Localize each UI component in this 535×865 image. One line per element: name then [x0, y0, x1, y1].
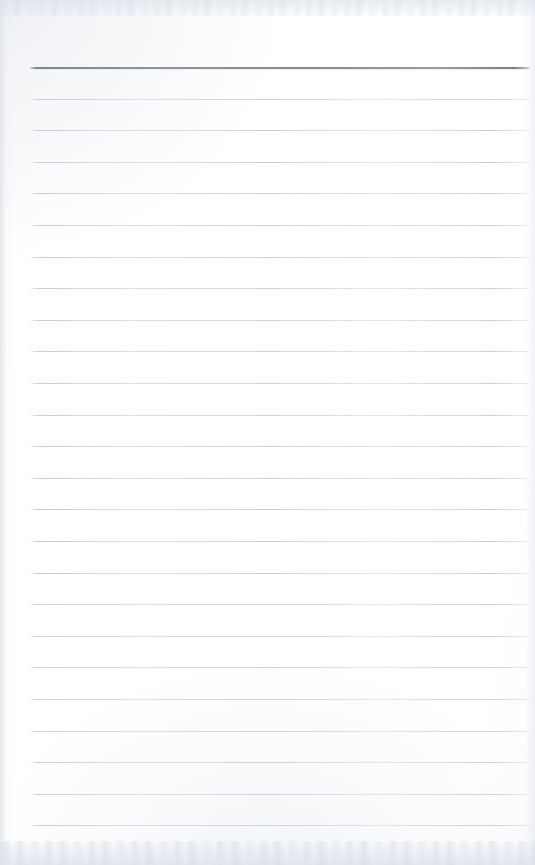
rule-line	[30, 99, 529, 100]
rule-line	[30, 225, 529, 226]
rule-line	[30, 162, 529, 163]
rule-line	[30, 478, 529, 479]
rule-line	[30, 446, 529, 447]
rule-line	[30, 383, 529, 384]
rule-line	[30, 288, 529, 289]
rule-line	[30, 509, 529, 510]
scanned-page	[0, 0, 535, 865]
rule-line	[30, 604, 529, 605]
rule-line	[30, 825, 529, 826]
ruled-lines-layer	[0, 0, 535, 865]
rule-line	[30, 699, 529, 700]
rule-line	[30, 257, 529, 258]
rule-line	[30, 351, 529, 352]
rule-line	[30, 320, 529, 321]
rule-line	[30, 667, 529, 668]
rule-line	[30, 636, 529, 637]
rule-line	[30, 573, 529, 574]
rule-line	[30, 541, 529, 542]
header-rule-line	[30, 67, 529, 69]
rule-line	[30, 731, 529, 732]
rule-line	[30, 193, 529, 194]
rule-line	[30, 130, 529, 131]
rule-line	[30, 415, 529, 416]
rule-line	[30, 762, 529, 763]
rule-line	[30, 794, 529, 795]
